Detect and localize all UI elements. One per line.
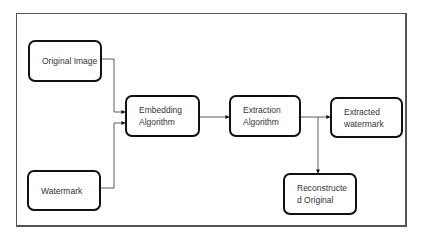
- node-embedding-algorithm: Embedding Algorithm: [125, 95, 200, 137]
- node-watermark: Watermark: [27, 170, 101, 211]
- node-label: Watermark: [41, 185, 82, 197]
- node-extraction-algorithm: Extraction Algorithm: [229, 95, 301, 137]
- node-reconstructed-original: Reconstructe d Original: [283, 173, 357, 215]
- node-extracted-watermark: Extracted watermark: [330, 97, 403, 138]
- node-label: Embedding Algorithm: [139, 104, 182, 128]
- node-label: Reconstructe d Original: [297, 182, 347, 206]
- edge-original-to-embedding: [101, 59, 125, 112]
- edge-watermark-to-embedding: [100, 123, 125, 188]
- node-label: Extracted watermark: [344, 106, 384, 130]
- node-label: Original Image: [42, 55, 97, 67]
- node-label: Extraction Algorithm: [243, 104, 281, 128]
- node-original-image: Original Image: [28, 40, 102, 82]
